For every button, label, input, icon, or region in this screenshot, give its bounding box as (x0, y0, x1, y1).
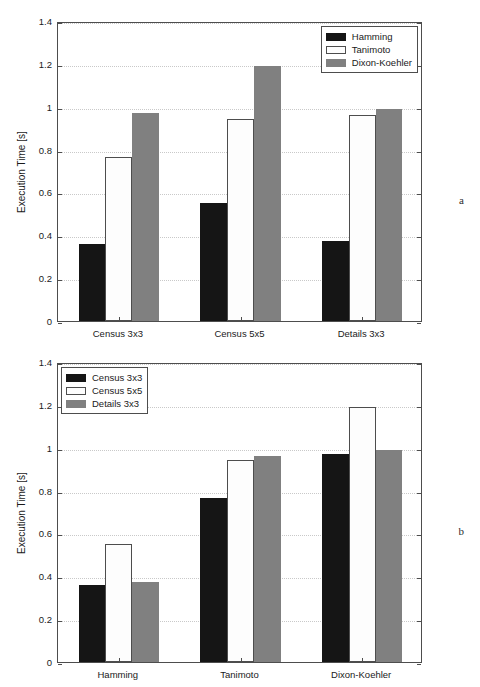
bar (349, 407, 376, 662)
legend-a: HammingTanimotoDixon-Koehler (321, 26, 418, 73)
y-tick-label: 1 (0, 444, 52, 454)
gridline (58, 364, 421, 365)
bar (376, 450, 403, 662)
bar (322, 241, 349, 321)
y-tick-mark (58, 66, 62, 67)
bar (227, 460, 254, 663)
bar (376, 109, 403, 321)
y-tick-label: 0.8 (0, 146, 52, 156)
y-tick-mark (58, 621, 62, 622)
bar (132, 582, 159, 662)
y-tick-label: 1.4 (0, 17, 52, 27)
y-tick-mark (58, 109, 62, 110)
y-tick-mark (58, 323, 62, 324)
figure-bar-charts: Execution Time [s] HammingTanimotoDixon-… (0, 0, 480, 687)
y-tick-label: 1.4 (0, 358, 52, 368)
bar (79, 585, 106, 662)
panel-a: Execution Time [s] HammingTanimotoDixon-… (0, 8, 480, 348)
y-tick-label: 0.2 (0, 615, 52, 625)
y-tick-label: 0 (0, 317, 52, 327)
legend-item: Census 5x5 (66, 384, 142, 397)
y-tick-mark (417, 194, 421, 195)
y-tick-mark (417, 450, 421, 451)
y-tick-label: 0.6 (0, 188, 52, 198)
legend-swatch (326, 33, 346, 41)
legend-item: Hamming (326, 30, 412, 43)
legend-swatch (66, 387, 86, 395)
x-tick-mark (119, 317, 120, 321)
legend-item: Census 3x3 (66, 371, 142, 384)
y-tick-label: 0.8 (0, 487, 52, 497)
x-tick-label: Hamming (98, 669, 139, 680)
x-tick-mark (362, 317, 363, 321)
y-tick-mark (58, 364, 62, 365)
y-tick-mark (58, 578, 62, 579)
legend-b: Census 3x3Census 5x5Details 3x3 (61, 367, 148, 414)
y-tick-mark (58, 493, 62, 494)
y-tick-label: 0 (0, 658, 52, 668)
bar (105, 544, 132, 662)
x-tick-label: Details 3x3 (338, 328, 385, 339)
bar (349, 115, 376, 321)
x-tick-mark (119, 658, 120, 662)
y-tick-label: 0.4 (0, 572, 52, 582)
gridline (58, 23, 421, 24)
x-tick-label: Census 5x5 (214, 328, 264, 339)
gridline (58, 109, 421, 110)
y-tick-mark (58, 237, 62, 238)
y-tick-mark (417, 152, 421, 153)
legend-label: Dixon-Koehler (352, 57, 412, 68)
legend-label: Tanimoto (352, 44, 391, 55)
y-tick-mark (58, 280, 62, 281)
y-tick-mark (58, 152, 62, 153)
y-tick-mark (417, 237, 421, 238)
y-tick-mark (417, 23, 421, 24)
y-tick-label: 0.6 (0, 529, 52, 539)
y-tick-mark (417, 109, 421, 110)
legend-label: Census 3x3 (92, 372, 142, 383)
x-tick-label: Dixon-Koehler (331, 669, 391, 680)
bar (227, 119, 254, 322)
legend-label: Hamming (352, 31, 393, 42)
panel-letter-b: b (459, 525, 465, 537)
bar (105, 157, 132, 321)
legend-label: Census 5x5 (92, 385, 142, 396)
x-tick-label: Census 3x3 (93, 328, 143, 339)
legend-swatch (66, 374, 86, 382)
x-tick-mark (362, 658, 363, 662)
legend-swatch (326, 59, 346, 67)
bar (322, 454, 349, 662)
x-tick-mark (241, 317, 242, 321)
bar (254, 66, 281, 321)
legend-swatch (326, 46, 346, 54)
y-tick-mark (417, 621, 421, 622)
bar (132, 113, 159, 321)
legend-swatch (66, 400, 86, 408)
x-tick-label: Tanimoto (220, 669, 259, 680)
bar (200, 498, 227, 662)
y-tick-mark (58, 450, 62, 451)
y-tick-mark (417, 280, 421, 281)
legend-item: Tanimoto (326, 43, 412, 56)
y-tick-mark (417, 493, 421, 494)
legend-item: Dixon-Koehler (326, 56, 412, 69)
bar (200, 203, 227, 321)
y-tick-label: 0.4 (0, 231, 52, 241)
y-tick-label: 1 (0, 103, 52, 113)
y-tick-mark (58, 23, 62, 24)
x-tick-mark (241, 658, 242, 662)
panel-b: Execution Time [s] Census 3x3Census 5x5D… (0, 345, 480, 687)
y-axis-title-a: Execution Time [s] (16, 131, 27, 213)
y-axis-title-b: Execution Time [s] (16, 472, 27, 554)
y-tick-label: 0.2 (0, 274, 52, 284)
y-tick-mark (58, 535, 62, 536)
y-tick-mark (417, 664, 421, 665)
legend-item: Details 3x3 (66, 397, 142, 410)
legend-label: Details 3x3 (92, 398, 139, 409)
y-tick-mark (58, 664, 62, 665)
y-tick-mark (417, 364, 421, 365)
y-tick-mark (417, 407, 421, 408)
y-tick-label: 1.2 (0, 401, 52, 411)
y-tick-mark (417, 535, 421, 536)
panel-letter-a: a (459, 194, 464, 206)
